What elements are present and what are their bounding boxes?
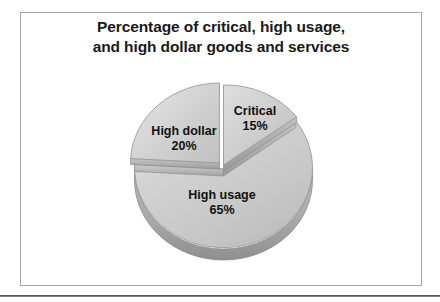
chart-title: Percentage of critical, high usage, and … bbox=[20, 17, 422, 57]
bottom-divider-rule bbox=[0, 295, 440, 297]
pie-chart: Critical 15% High dollar 20% High usage … bbox=[120, 72, 330, 272]
chart-title-line-1: Percentage of critical, high usage, bbox=[20, 17, 422, 37]
chart-title-line-2: and high dollar goods and services bbox=[20, 37, 422, 57]
pie-chart-svg bbox=[120, 72, 330, 272]
pie-slice-high-dollar bbox=[131, 83, 220, 169]
